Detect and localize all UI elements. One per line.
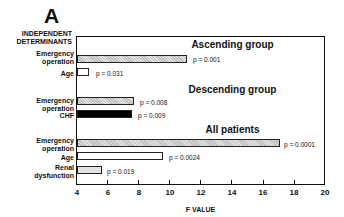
bar-asc-emergency (77, 55, 187, 63)
label-emergency-desc: Emergency operation (4, 97, 74, 112)
label-age-asc: Age (4, 70, 74, 78)
x-tick-label: 16 (253, 188, 273, 197)
bar-asc-age (77, 68, 89, 76)
label-line: dysfunction (4, 172, 74, 180)
label-line: operation (4, 58, 74, 66)
label-line: operation (4, 145, 74, 153)
pvalue: p = 0.001 (193, 56, 220, 63)
bar-all-age (77, 152, 163, 160)
bar-desc-chf (77, 110, 132, 118)
group-title-all: All patients (140, 124, 325, 135)
x-tick (263, 180, 264, 185)
y-axis-header: INDEPENDENT DETERMINANTS (2, 30, 72, 46)
x-tick-label: 18 (284, 188, 304, 197)
x-tick (107, 180, 108, 185)
label-emergency-all: Emergency operation (4, 137, 74, 152)
label-line: operation (4, 105, 74, 113)
bar-desc-emergency (77, 97, 134, 105)
label-renal: Renal dysfunction (4, 164, 74, 179)
x-tick (200, 180, 201, 185)
x-tick (231, 180, 232, 185)
bar-all-emergency (77, 139, 280, 147)
x-tick-label: 6 (98, 188, 118, 197)
x-tick-label: 14 (222, 188, 242, 197)
pvalue: p = 0.008 (140, 99, 167, 106)
label-chf: CHF (4, 112, 74, 120)
label-age-all: Age (4, 154, 74, 162)
label-line: Renal (4, 164, 74, 172)
x-tick-label: 10 (160, 188, 180, 197)
pvalue: p = 0.0001 (284, 141, 315, 148)
pvalue: p = 0.0024 (169, 154, 200, 161)
x-tick (294, 180, 295, 185)
x-axis-label: F VALUE (76, 206, 325, 213)
pvalue: p = 0.031 (96, 70, 123, 77)
panel-letter: A (44, 4, 59, 28)
pvalue: p = 0.009 (138, 112, 165, 119)
group-title-descending: Descending group (140, 84, 325, 95)
x-tick (169, 180, 170, 185)
label-emergency-asc: Emergency operation (4, 50, 74, 65)
label-line: Emergency (4, 137, 74, 145)
label-line: Emergency (4, 97, 74, 105)
x-tick (138, 180, 139, 185)
group-title-ascending: Ascending group (140, 39, 325, 50)
x-tick-label: 12 (191, 188, 211, 197)
pvalue: p = 0.019 (107, 168, 134, 175)
bar-all-renal (77, 166, 102, 174)
x-tick-label: 8 (129, 188, 149, 197)
x-tick-label: 20 (315, 188, 335, 197)
x-tick-label: 4 (67, 188, 87, 197)
label-line: Emergency (4, 50, 74, 58)
